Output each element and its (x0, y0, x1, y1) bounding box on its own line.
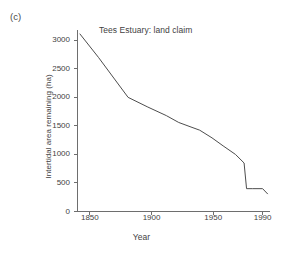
x-tick-label-1850: 1850 (81, 214, 99, 222)
figure-panel: (c) Tees Estuary: land claim Intertidal … (0, 0, 283, 256)
x-tick-label-1950: 1950 (204, 214, 222, 222)
x-axis-tick-labels: 1850190019501990 (0, 0, 283, 256)
x-tick-label-1900: 1900 (143, 214, 161, 222)
x-tick-label-1990: 1990 (254, 214, 272, 222)
